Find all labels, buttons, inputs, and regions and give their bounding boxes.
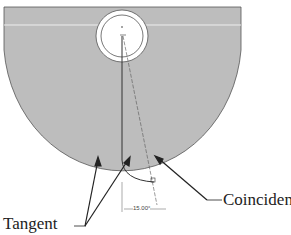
tangent-label: Tangent [3, 214, 58, 234]
dimension-value: 15.00° [133, 205, 150, 211]
coincident-label: Coincident [223, 190, 291, 210]
